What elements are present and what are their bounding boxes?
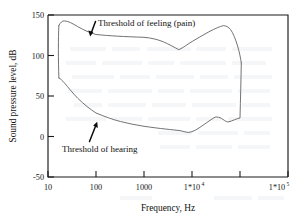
xtick-1e4-exponent: 4: [202, 181, 205, 187]
audiogram-figure: 150 100 50 0 -50 10 100 1000 1*10 4 1*10…: [0, 0, 306, 224]
xtick-1e5-mantissa: 1*10: [269, 183, 285, 192]
y-axis-title: Sound pressure level, dB: [8, 50, 18, 143]
ytick-label-neg50: -50: [33, 173, 44, 182]
ytick-label-100: 100: [32, 52, 44, 61]
ytick-label-0: 0: [40, 133, 44, 142]
xtick-label-10: 10: [44, 183, 52, 192]
chart-svg: 150 100 50 0 -50 10 100 1000 1*10 4 1*10…: [0, 0, 306, 224]
xtick-1e4-mantissa: 1*10: [184, 183, 200, 192]
annotation-pain-label: Threshold of feeling (pain): [98, 18, 195, 28]
annotation-hearing-label: Threshold of hearing: [62, 144, 138, 154]
xtick-label-100: 100: [90, 183, 102, 192]
xtick-label-1000: 1000: [136, 183, 152, 192]
xtick-1e5-exponent: 5: [287, 181, 290, 187]
ytick-label-150: 150: [32, 11, 44, 20]
ytick-label-50: 50: [36, 92, 44, 101]
x-axis-title: Frequency, Hz: [141, 203, 195, 213]
